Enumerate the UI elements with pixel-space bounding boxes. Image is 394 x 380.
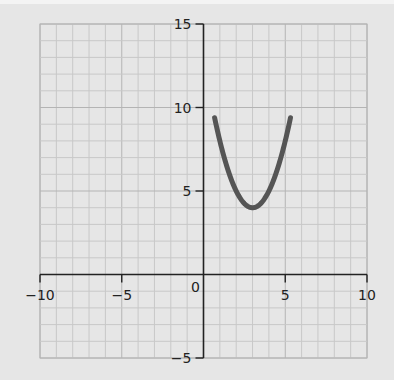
x-tick-label: 0 <box>191 279 200 295</box>
y-tick-label: 10 <box>174 100 192 116</box>
y-tick-label: 5 <box>183 183 192 199</box>
x-tick-label: 5 <box>281 287 290 303</box>
y-tick-label: 15 <box>174 16 192 32</box>
x-tick-label: −10 <box>25 287 55 303</box>
parabola-chart: −10−50510−551015 <box>0 0 394 380</box>
x-tick-label: −5 <box>111 287 132 303</box>
x-tick-label: 10 <box>358 287 376 303</box>
y-tick-label: −5 <box>171 350 192 366</box>
